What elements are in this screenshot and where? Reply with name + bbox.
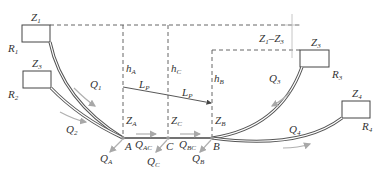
junction-c (166, 136, 170, 140)
elev-b-label: ZB (215, 114, 226, 128)
pipe-r1-a (50, 42, 123, 138)
junction-b (210, 136, 214, 140)
flow-qbc-label: QBC (179, 138, 196, 152)
reservoir-r4: Z4 R4 (342, 87, 373, 134)
head-b-label: hB (214, 72, 225, 86)
elev-a-label: ZA (126, 114, 137, 128)
flow-q4-label: Q4 (289, 123, 301, 137)
flow-qb-label: QB (192, 152, 205, 166)
reservoir-r3: Z3 R3 (300, 36, 343, 82)
flow-q3-label: Q3 (269, 72, 281, 86)
flow-qac-label: QAC (135, 138, 152, 152)
node-c-label: C (166, 140, 174, 152)
reservoir-r2-box (23, 71, 51, 88)
head-a-label: hA (126, 62, 137, 76)
reservoir-r3-label: R3 (331, 68, 343, 82)
reservoir-r2: Z3 R2 (7, 57, 51, 102)
reservoir-r3-level: Z3 (311, 36, 321, 50)
reservoir-r3-box (300, 50, 329, 67)
reservoir-r4-level: Z4 (352, 87, 362, 101)
reservoir-r4-box (342, 101, 370, 118)
pipes (50, 42, 342, 141)
junction-a (121, 136, 125, 140)
pipe-network-diagram: Z1 R1 Z3 R2 Z3 R3 Z4 R4 Z1–Z3 LP LP hA (0, 0, 385, 169)
flow-qa-label: QA (100, 152, 113, 166)
flow-qa-arrow (110, 140, 122, 152)
flow-q2-label: Q2 (66, 123, 78, 137)
reservoir-r4-label: R4 (361, 120, 373, 134)
head-c-label: hC (171, 62, 182, 76)
segment-lp-1-label: LP (138, 78, 150, 92)
head-difference-label: Z1–Z3 (259, 32, 284, 46)
flow-qb-arrow (200, 140, 211, 152)
node-b-label: B (213, 140, 220, 152)
elev-c-label: ZC (171, 114, 182, 128)
flow-q1-label: Q1 (90, 78, 101, 92)
reservoir-r1-level: Z1 (31, 11, 41, 25)
reservoir-r1: Z1 R1 (7, 11, 50, 56)
reservoir-r1-box (22, 25, 50, 42)
hydraulic-grade-line: LP LP (123, 78, 211, 103)
segment-lp-2-label: LP (181, 86, 193, 100)
reservoir-r1-label: R1 (7, 42, 18, 56)
flow-q4-arrow (283, 144, 310, 148)
node-a-label: A (124, 140, 132, 152)
reservoir-r2-label: R2 (7, 88, 19, 102)
reservoir-r2-level: Z3 (32, 57, 42, 71)
flow-qc-label: QC (147, 155, 160, 169)
